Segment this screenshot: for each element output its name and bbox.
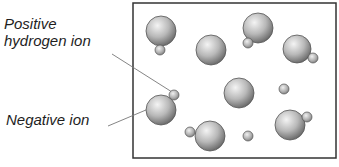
hydrogen-ion (155, 45, 165, 55)
negative-ion (195, 121, 225, 151)
hydrogen-ion (169, 90, 179, 100)
hydrogen-ion (308, 53, 318, 63)
hydrogen-ion (302, 112, 312, 122)
negative-ions (146, 13, 311, 151)
negative-ion (283, 35, 311, 63)
negative-ion (146, 16, 176, 46)
ion-diagram (0, 0, 339, 167)
hydrogen-ion (279, 84, 289, 94)
hydrogen-ion (243, 38, 253, 48)
negative-ion (275, 110, 305, 140)
hydrogen-ion (243, 131, 253, 141)
hydrogen-ion (185, 127, 195, 137)
positive-leader (112, 54, 172, 92)
negative-ion (196, 35, 226, 65)
negative-ion (224, 78, 254, 108)
